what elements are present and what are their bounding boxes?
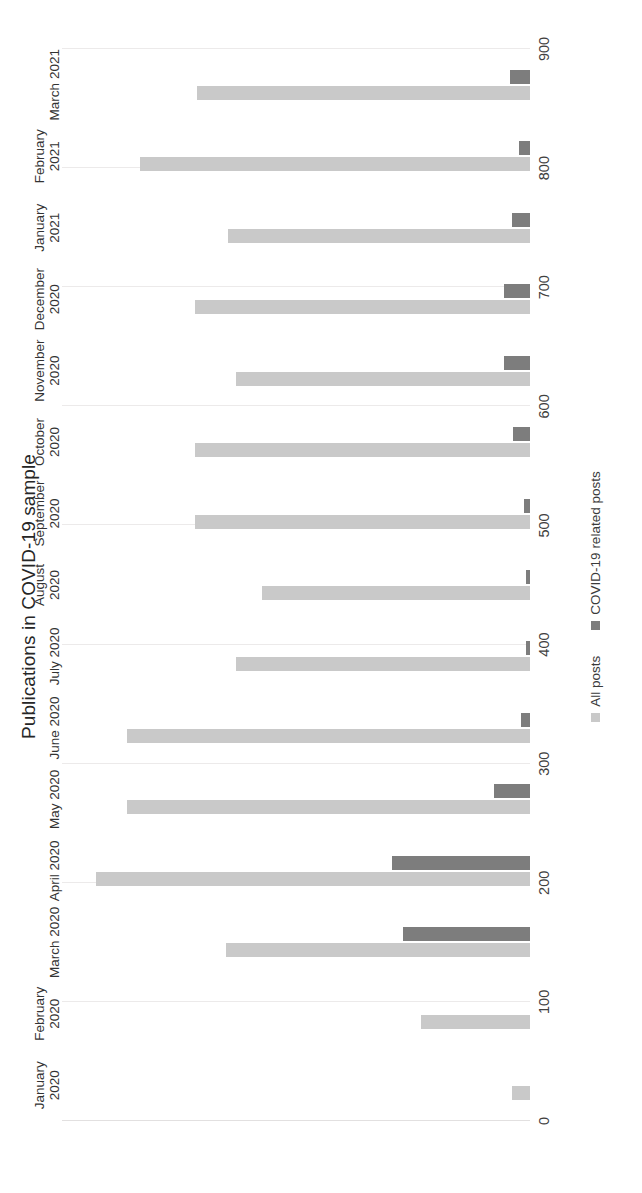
legend-item[interactable]: COVID-19 related posts — [588, 471, 603, 629]
bar-all-posts — [195, 300, 530, 314]
bar-covid-related-posts — [513, 427, 530, 441]
bar-covid-related-posts — [504, 356, 530, 370]
bar-group — [62, 356, 530, 386]
category-label: April 2020 — [47, 840, 62, 901]
bar-group — [62, 499, 530, 529]
bar-all-posts — [226, 943, 530, 957]
category-label: January2020 — [32, 1061, 62, 1109]
plot-area — [62, 49, 530, 1121]
category-label: September2020 — [32, 481, 62, 547]
bar-group — [62, 713, 530, 743]
bar-group — [62, 927, 530, 957]
bar-covid-related-posts — [526, 641, 530, 655]
gridline — [62, 405, 530, 406]
legend-label: All posts — [588, 656, 603, 707]
chart-figure: Publications in COVID-19 sample January2… — [0, 0, 642, 1193]
bar-group — [62, 284, 530, 314]
category-label: March 2020 — [47, 907, 62, 978]
bar-group — [62, 1070, 530, 1100]
bar-all-posts — [127, 800, 530, 814]
value-tick-label: 400 — [536, 632, 552, 656]
bar-group — [62, 784, 530, 814]
gridline — [62, 48, 530, 49]
value-tick-label: 600 — [536, 394, 552, 418]
legend-item[interactable]: All posts — [588, 656, 603, 722]
category-label: July 2020 — [47, 628, 62, 686]
bar-covid-related-posts — [392, 856, 530, 870]
category-label: June 2020 — [47, 696, 62, 759]
gridline — [62, 763, 530, 764]
category-label: August2020 — [32, 564, 62, 606]
bar-group — [62, 641, 530, 671]
value-tick-label: 500 — [536, 513, 552, 537]
value-axis-ticks: 0100200300400500600700800900 — [536, 49, 562, 1121]
bar-all-posts — [197, 86, 530, 100]
bar-covid-related-posts — [521, 713, 530, 727]
bar-covid-related-posts — [510, 70, 530, 84]
category-label: November2020 — [32, 339, 62, 401]
category-axis-labels: January2020February2020March 2020April 2… — [20, 49, 62, 1121]
gridline — [62, 1120, 530, 1121]
bar-covid-related-posts — [504, 284, 530, 298]
category-label: December2020 — [32, 268, 62, 330]
value-tick-label: 300 — [536, 752, 552, 776]
bar-group — [62, 856, 530, 886]
bar-covid-related-posts — [519, 141, 530, 155]
value-tick-label: 0 — [536, 1117, 552, 1125]
bar-all-posts — [512, 1086, 530, 1100]
bar-group — [62, 427, 530, 457]
bar-covid-related-posts — [526, 570, 530, 584]
bar-all-posts — [236, 657, 530, 671]
category-label: February2021 — [32, 129, 62, 183]
bar-all-posts — [127, 729, 530, 743]
legend-swatch-covid — [591, 621, 600, 630]
category-label: May 2020 — [47, 770, 62, 829]
rotated-figure-wrapper: Publications in COVID-19 sample January2… — [0, 0, 642, 1193]
bar-covid-related-posts — [512, 213, 530, 227]
bar-all-posts — [262, 586, 530, 600]
bar-all-posts — [195, 515, 530, 529]
legend-label: COVID-19 related posts — [588, 471, 603, 614]
category-label: March 2021 — [47, 49, 62, 120]
value-tick-label: 200 — [536, 871, 552, 895]
bar-all-posts — [421, 1015, 530, 1029]
bar-all-posts — [96, 872, 530, 886]
bar-group — [62, 999, 530, 1029]
bar-all-posts — [195, 443, 530, 457]
category-label: February2020 — [32, 987, 62, 1041]
bar-covid-related-posts — [494, 784, 530, 798]
chart-legend: All postsCOVID-19 related posts — [588, 0, 603, 1193]
value-tick-label: 100 — [536, 990, 552, 1014]
bar-group — [62, 213, 530, 243]
value-tick-label: 700 — [536, 275, 552, 299]
bar-group — [62, 570, 530, 600]
category-label: January2021 — [32, 204, 62, 252]
value-tick-label: 900 — [536, 37, 552, 61]
bar-all-posts — [140, 157, 530, 171]
category-label: October2020 — [32, 418, 62, 466]
legend-swatch-all — [591, 713, 600, 722]
bar-all-posts — [228, 229, 530, 243]
bar-covid-related-posts — [403, 927, 530, 941]
bar-group — [62, 70, 530, 100]
bar-covid-related-posts — [524, 499, 530, 513]
value-tick-label: 800 — [536, 156, 552, 180]
bar-all-posts — [236, 372, 530, 386]
bar-group — [62, 141, 530, 171]
